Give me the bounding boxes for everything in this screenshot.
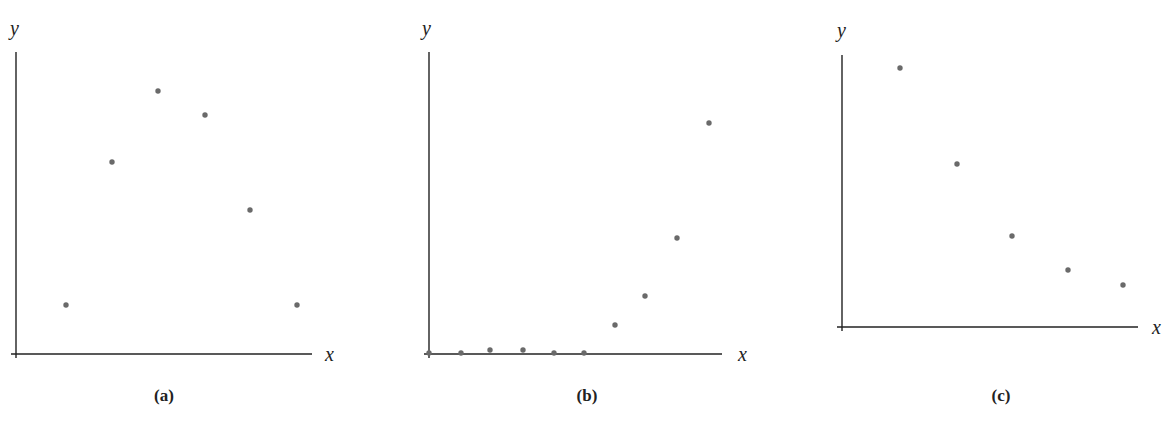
x-axis-label: x (737, 343, 747, 365)
data-point (674, 235, 679, 240)
panel-a: y x (a) (8, 17, 334, 405)
data-point (954, 161, 959, 166)
data-point (109, 159, 114, 164)
data-point (897, 65, 902, 70)
data-point (520, 347, 525, 352)
data-point (1065, 267, 1070, 272)
scatter-figure: y x (a) y x (b) y x (c) (0, 0, 1171, 426)
data-point (1009, 233, 1014, 238)
y-axis-label: y (420, 17, 431, 40)
data-point (247, 207, 252, 212)
panel-caption: (a) (154, 386, 174, 405)
y-axis-label: y (8, 17, 19, 40)
data-point (458, 350, 463, 355)
data-point (487, 347, 492, 352)
data-point (612, 322, 617, 327)
data-point (294, 302, 299, 307)
panel-caption: (b) (577, 386, 598, 405)
data-point (706, 120, 711, 125)
x-axis-label: x (1151, 316, 1161, 338)
data-point (202, 112, 207, 117)
x-axis-label: x (324, 343, 334, 365)
panel-b: y x (b) (420, 17, 747, 405)
data-point (1120, 282, 1125, 287)
panel-caption: (c) (992, 386, 1011, 405)
data-point (551, 350, 556, 355)
data-point (581, 350, 586, 355)
data-point (426, 350, 431, 355)
data-point (155, 88, 160, 93)
data-point (642, 293, 647, 298)
y-axis-label: y (835, 19, 846, 42)
data-point (63, 302, 68, 307)
panel-c: y x (c) (835, 19, 1161, 405)
